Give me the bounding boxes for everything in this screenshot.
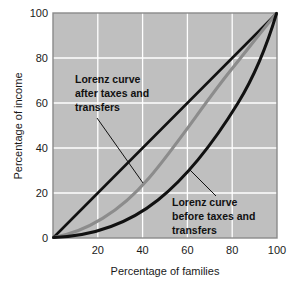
annotation-before-taxes-line2: before taxes and (172, 210, 255, 222)
x-tick-60: 60 (181, 244, 193, 256)
x-axis-title: Percentage of families (111, 265, 220, 277)
y-tick-100: 100 (30, 7, 48, 19)
x-tick-40: 40 (136, 244, 148, 256)
y-tick-60: 60 (36, 97, 48, 109)
annotation-before-taxes-line1: Lorenz curve (172, 196, 238, 208)
y-tick-0: 0 (42, 232, 48, 244)
y-tick-20: 20 (36, 187, 48, 199)
y-axis-ticks: 100 80 60 40 20 0 (30, 7, 48, 244)
annotation-after-taxes-line2: after taxes and (75, 87, 149, 99)
annotation-before-taxes-line3: transfers (172, 224, 217, 236)
x-tick-20: 20 (92, 244, 104, 256)
y-axis-title: Percentage of income (12, 72, 24, 179)
annotation-after-taxes-line3: transfers (75, 101, 120, 113)
x-axis-ticks: 20 40 60 80 100 (92, 244, 287, 256)
annotation-after-taxes-line1: Lorenz curve (75, 73, 141, 85)
y-tick-40: 40 (36, 142, 48, 154)
lorenz-curve-figure: 100 80 60 40 20 0 20 40 60 80 100 Percen… (0, 0, 298, 287)
y-tick-80: 80 (36, 52, 48, 64)
chart-canvas: 100 80 60 40 20 0 20 40 60 80 100 Percen… (0, 0, 298, 287)
x-tick-80: 80 (226, 244, 238, 256)
x-tick-100: 100 (268, 244, 286, 256)
